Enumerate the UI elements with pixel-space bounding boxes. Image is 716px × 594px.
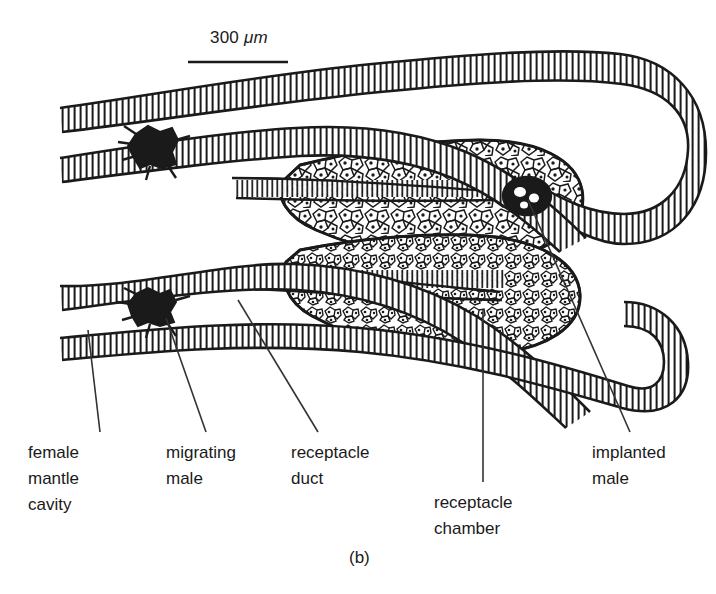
label-implanted-male: implantedmale bbox=[592, 440, 666, 492]
label-line: cavity bbox=[28, 492, 79, 518]
label-female-mantle-cavity: femalemantlecavity bbox=[28, 440, 79, 518]
label-line: mantle bbox=[28, 466, 79, 492]
implanted-male-body bbox=[503, 177, 551, 215]
label-receptacle-chamber: receptaclechamber bbox=[434, 490, 512, 542]
label-receptacle-duct: receptacleduct bbox=[291, 440, 369, 492]
label-line: receptacle bbox=[434, 490, 512, 516]
scale-bar-label: 300 μm bbox=[210, 28, 268, 48]
figure-caption: (b) bbox=[349, 548, 370, 568]
label-line: duct bbox=[291, 466, 369, 492]
label-line: migrating bbox=[166, 440, 236, 466]
leader-receptacle-duct bbox=[238, 300, 318, 432]
label-line: receptacle bbox=[291, 440, 369, 466]
anatomical-drawing bbox=[0, 0, 716, 594]
figure-panel: 300 μm femalemantlecavity migratingmale … bbox=[0, 0, 716, 594]
label-migrating-male: migratingmale bbox=[166, 440, 236, 492]
label-line: female bbox=[28, 440, 79, 466]
scale-bar-value: 300 bbox=[210, 28, 239, 47]
label-line: chamber bbox=[434, 516, 512, 542]
label-line: male bbox=[166, 466, 236, 492]
scale-bar-unit: μm bbox=[244, 28, 268, 47]
label-line: implanted bbox=[592, 440, 666, 466]
label-line: male bbox=[592, 466, 666, 492]
